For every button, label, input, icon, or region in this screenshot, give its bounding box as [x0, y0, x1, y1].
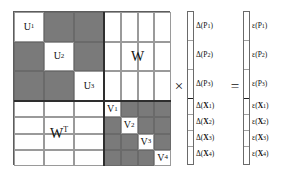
u-block-diagonal-label: U1 [15, 13, 43, 41]
w-block-cell [104, 42, 121, 72]
w-block-cell [121, 42, 138, 72]
epsilon-vector-segment-label: ε(P3) [252, 69, 290, 98]
wt-block-cell [44, 101, 74, 117]
v-block-diagonal-cell: V3 [138, 134, 155, 150]
delta-vector-segment [188, 12, 193, 41]
w-block-cell [154, 12, 171, 42]
delta-vector-segment [188, 147, 193, 163]
delta-vector-bar [187, 11, 194, 165]
wt-block-cell [74, 117, 104, 133]
epsilon-vector-segment [244, 41, 249, 70]
w-block-cell [138, 71, 155, 101]
wt-block-cell [14, 150, 44, 166]
u-block-cell [44, 12, 74, 42]
v-block-diagonal-label: V1 [105, 102, 120, 116]
u-block-diagonal-cell: U1 [14, 12, 44, 42]
matrix-block-u: U1U2U3 [14, 12, 104, 101]
v-block-cell [138, 150, 155, 166]
w-block-cell [121, 71, 138, 101]
epsilon-vector-segment-label: ε(X1) [252, 98, 290, 114]
u-block-diagonal-cell: U3 [74, 71, 104, 101]
wt-block-cell [44, 117, 74, 133]
epsilon-vector-segment [244, 99, 249, 115]
w-block-cell [121, 12, 138, 42]
w-block-cell [138, 42, 155, 72]
v-block-cell [154, 101, 171, 117]
matrix-horizontal-partition [14, 100, 171, 102]
v-block-diagonal-label: V3 [139, 135, 154, 149]
delta-vector-segment-label: Δ(X3) [196, 130, 240, 146]
wt-block-cell [44, 150, 74, 166]
w-block-cell [154, 42, 171, 72]
delta-vector-segment [188, 70, 193, 99]
epsilon-vector-segment-label: ε(X2) [252, 114, 290, 130]
w-block-cell [138, 12, 155, 42]
matrix-block-w [104, 12, 171, 101]
wt-block-cell [14, 117, 44, 133]
u-block-diagonal-label: U2 [45, 43, 73, 71]
matrix-vertical-partition [103, 12, 105, 166]
epsilon-vector-segment [244, 131, 249, 147]
v-block-cell [121, 101, 138, 117]
delta-vector-segment-label: Δ(X4) [196, 146, 240, 162]
delta-vector-segment [188, 131, 193, 147]
v-block-cell [154, 134, 171, 150]
v-block-cell [104, 150, 121, 166]
epsilon-vector-segment [244, 147, 249, 163]
wt-block-cell [14, 101, 44, 117]
v-block-cell [138, 101, 155, 117]
v-block-cell [104, 134, 121, 150]
epsilon-vector-segment-label: ε(X4) [252, 146, 290, 162]
wt-block-cell [44, 134, 74, 150]
w-block-cell [154, 71, 171, 101]
wt-block-cell [74, 150, 104, 166]
v-block-diagonal-cell: V2 [121, 117, 138, 133]
epsilon-vector-segment-label: ε(P2) [252, 40, 290, 69]
v-block-diagonal-label: V2 [122, 118, 137, 132]
delta-vector-segment-label: Δ(P1) [196, 11, 240, 40]
u-block-cell [74, 42, 104, 72]
delta-vector-segment [188, 41, 193, 70]
v-block-cell [121, 150, 138, 166]
wt-block-cell [14, 134, 44, 150]
u-block-cell [44, 71, 74, 101]
u-block-diagonal-cell: U2 [44, 42, 74, 72]
v-block-cell [104, 117, 121, 133]
diagram-canvas: U1U2U3 V1V2V3V4 W WT × = Δ(P1)Δ(P2)Δ(P3)… [0, 0, 290, 173]
w-block-cell [104, 12, 121, 42]
delta-vector-segment [188, 115, 193, 131]
matrix-block-w-transpose [14, 101, 104, 166]
wt-block-cell [74, 134, 104, 150]
delta-vector-segment [188, 99, 193, 115]
delta-vector-segment-label: Δ(X1) [196, 98, 240, 114]
epsilon-vector-bar [243, 11, 250, 165]
u-block-cell [14, 42, 44, 72]
v-block-cell [154, 117, 171, 133]
u-block-cell [74, 12, 104, 42]
epsilon-vector-segment-label: ε(X3) [252, 130, 290, 146]
epsilon-vector-labels: ε(P1)ε(P2)ε(P3)ε(X1)ε(X2)ε(X3)ε(X4) [252, 11, 290, 165]
v-block-cell [121, 134, 138, 150]
multiply-operator: × [172, 77, 186, 95]
matrix-block-v: V1V2V3V4 [104, 101, 171, 166]
delta-vector-segment-label: Δ(P2) [196, 40, 240, 69]
delta-vector-segment-label: Δ(P3) [196, 69, 240, 98]
delta-vector-segment-label: Δ(X2) [196, 114, 240, 130]
u-block-diagonal-label: U3 [75, 72, 103, 100]
v-block-cell [138, 117, 155, 133]
w-block-cell [104, 71, 121, 101]
u-block-cell [14, 71, 44, 101]
block-matrix: U1U2U3 V1V2V3V4 W WT [13, 11, 170, 165]
wt-block-cell [74, 101, 104, 117]
epsilon-vector-segment [244, 12, 249, 41]
epsilon-vector-segment-label: ε(P1) [252, 11, 290, 40]
epsilon-vector-segment [244, 115, 249, 131]
v-block-diagonal-label: V4 [155, 151, 170, 165]
v-block-diagonal-cell: V4 [154, 150, 171, 166]
v-block-diagonal-cell: V1 [104, 101, 121, 117]
epsilon-vector-segment [244, 70, 249, 99]
delta-vector-labels: Δ(P1)Δ(P2)Δ(P3)Δ(X1)Δ(X2)Δ(X3)Δ(X4) [196, 11, 240, 165]
